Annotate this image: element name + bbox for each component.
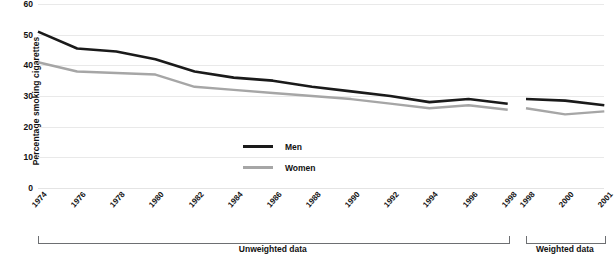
x-tick-label-1976-unweighted: 1976 — [69, 190, 88, 209]
y-tick-label-60: 60 — [24, 0, 33, 9]
x-tick-label-1982-unweighted: 1982 — [187, 190, 206, 209]
gridline-0 — [38, 188, 604, 189]
x-axis-labels: 1974197619781980198219841986198819901992… — [38, 190, 604, 224]
panel-weighted — [526, 4, 604, 188]
bracket-caption-unweighted: Unweighted data — [239, 244, 307, 254]
series-line-men — [526, 99, 604, 105]
y-tick-label-40: 40 — [24, 60, 33, 70]
bracket-caption-weighted: Weighted data — [536, 244, 594, 254]
legend-swatch-men — [243, 145, 273, 148]
legend-item-men: Men — [243, 136, 316, 157]
x-tick-label-1978-unweighted: 1978 — [108, 190, 127, 209]
bracket-weighted — [526, 236, 606, 244]
chart-legend: MenWomen — [243, 136, 316, 178]
panel-brackets: Unweighted dataWeighted data — [38, 236, 604, 253]
y-tick-label-0: 0 — [28, 183, 33, 193]
x-tick-label-1984-unweighted: 1984 — [226, 190, 245, 209]
legend-swatch-women — [243, 166, 273, 169]
x-tick-label-1986-unweighted: 1986 — [265, 190, 284, 209]
y-tick-label-50: 50 — [24, 30, 33, 40]
panel-plot-weighted — [526, 4, 604, 188]
y-tick-label-30: 30 — [24, 91, 33, 101]
x-tick-label-1998-unweighted: 1998 — [500, 190, 519, 209]
series-line-women — [526, 108, 604, 114]
x-tick-label-1992-unweighted: 1992 — [382, 190, 401, 209]
legend-label-women: Women — [285, 163, 316, 173]
x-tick-label-1990-unweighted: 1990 — [343, 190, 362, 209]
plot-area: 0102030405060 — [38, 4, 604, 188]
y-tick-label-20: 20 — [24, 122, 33, 132]
x-tick-label-1996-unweighted: 1996 — [461, 190, 480, 209]
x-tick-label-1998-weighted: 1998 — [518, 190, 537, 209]
y-tick-label-10: 10 — [24, 152, 33, 162]
legend-item-women: Women — [243, 157, 316, 178]
x-tick-label-1988-unweighted: 1988 — [304, 190, 323, 209]
bracket-unweighted — [38, 236, 510, 244]
x-tick-label-1994-unweighted: 1994 — [422, 190, 441, 209]
x-tick-label-2001-weighted: 2001 — [596, 190, 615, 209]
legend-label-men: Men — [285, 142, 302, 152]
x-tick-label-1980-unweighted: 1980 — [148, 190, 167, 209]
x-tick-label-2000-weighted: 2000 — [557, 190, 576, 209]
